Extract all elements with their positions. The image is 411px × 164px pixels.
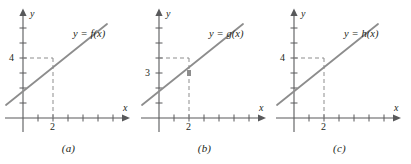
y-axis-a	[19, 9, 26, 133]
panel-caption-c: (c)	[271, 141, 408, 155]
panel-caption-b: (b)	[136, 141, 273, 155]
panel-a: y x 4 2 y = f(x) (a)	[0, 0, 137, 164]
y-axis-b	[155, 9, 162, 133]
function-label-b: y = g(x)	[209, 28, 244, 39]
function-label-a: y = f(x)	[73, 28, 105, 39]
x-tick-label-b: 2	[186, 122, 191, 132]
y-tick-label-b: 3	[145, 68, 150, 78]
x-tick-label-a: 2	[50, 122, 55, 132]
panel-b: y x 3 2 y = g(x) (b)	[136, 0, 273, 164]
figure-three-linear-graphs: y x 4 2 y = f(x) (a)	[0, 0, 411, 164]
plot-area-b	[136, 0, 273, 140]
x-axis-label-b: x	[259, 103, 263, 113]
y-tick-label-a: 4	[9, 53, 14, 63]
plot-area-c	[271, 0, 408, 140]
panel-caption-a: (a)	[0, 141, 137, 155]
x-axis-label-a: x	[123, 103, 127, 113]
y-axis-label-c: y	[301, 9, 305, 19]
y-axis-label-a: y	[30, 9, 34, 19]
x-tick-label-c: 2	[321, 122, 326, 132]
y-axis-c	[290, 9, 297, 133]
y-tick-label-c: 4	[280, 53, 285, 63]
function-label-c: y = h(x)	[344, 28, 379, 39]
point-marker-b	[187, 70, 191, 76]
x-axis-label-c: x	[394, 103, 398, 113]
plot-area-a	[0, 0, 137, 140]
panel-c: y x 4 2 y = h(x) (c)	[271, 0, 408, 164]
y-axis-label-b: y	[166, 9, 170, 19]
